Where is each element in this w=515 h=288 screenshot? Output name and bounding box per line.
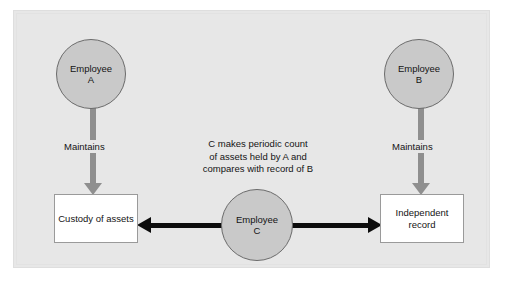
node-employee-a[interactable]: Employee A <box>56 39 126 109</box>
node-label-line-2: C <box>236 225 278 237</box>
arrow-employee-c-to-custody <box>137 217 227 233</box>
node-label-line-2: record <box>409 219 436 230</box>
node-label-line-1: Custody of <box>58 213 103 224</box>
node-independent-record[interactable]: Independent record <box>380 194 464 243</box>
node-label-line-2: B <box>398 74 440 86</box>
edge-label-maintains-a: Maintains <box>62 140 107 153</box>
node-label-line-2: A <box>70 74 112 86</box>
node-label-line-1: Employee <box>236 214 278 226</box>
arrow-head-left-icon <box>137 217 151 233</box>
node-label-line-1: Employee <box>398 63 440 75</box>
arrow-employee-c-to-record <box>288 217 382 233</box>
node-label-line-2: assets <box>106 213 133 224</box>
center-note-line-3: compares with record of B <box>172 163 344 176</box>
diagram-canvas: Employee A Employee B Employee C Custody… <box>0 0 515 288</box>
center-note: C makes periodic count of assets held by… <box>172 138 344 176</box>
node-employee-c[interactable]: Employee C <box>221 189 293 261</box>
center-note-line-2: of assets held by A and <box>172 151 344 164</box>
node-label-line-1: Independent <box>396 207 449 218</box>
arrow-shaft <box>288 223 369 228</box>
center-note-line-1: C makes periodic count <box>172 138 344 151</box>
edge-label-maintains-b: Maintains <box>390 140 435 153</box>
node-employee-b[interactable]: Employee B <box>384 39 454 109</box>
node-custody-of-assets[interactable]: Custody of assets <box>54 194 138 243</box>
arrow-shaft <box>150 223 227 228</box>
node-label-line-1: Employee <box>70 63 112 75</box>
